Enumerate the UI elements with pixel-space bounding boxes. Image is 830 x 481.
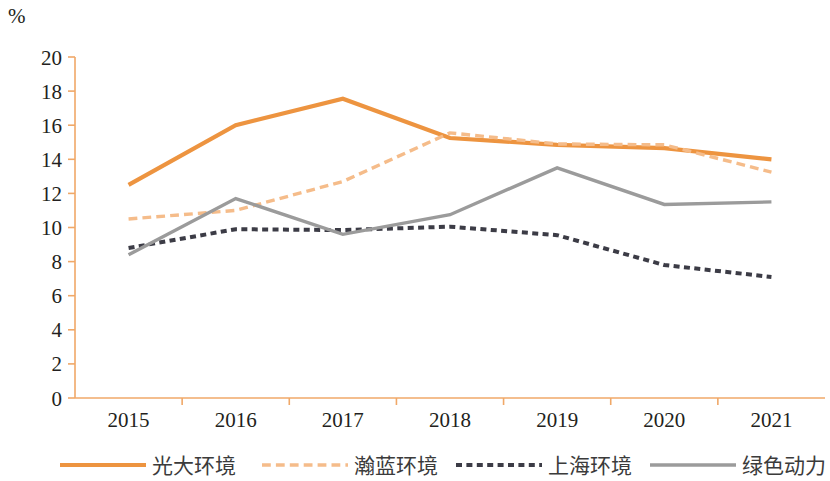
data-series-group <box>129 99 772 277</box>
x-axis-ticks <box>182 398 718 405</box>
legend-label-2: 瀚蓝环境 <box>354 454 438 478</box>
line-chart: % 02468101214161820 20152016201720182019… <box>0 0 830 481</box>
y-axis-tick-labels: 02468101214161820 <box>41 46 63 411</box>
y-tick-label: 2 <box>52 352 63 376</box>
chart-legend: 光大环境瀚蓝环境上海环境绿色动力 <box>60 454 826 478</box>
x-tick-label: 2017 <box>322 408 364 432</box>
y-tick-label: 14 <box>41 148 63 172</box>
x-tick-label: 2015 <box>108 408 150 432</box>
y-tick-label: 8 <box>52 250 63 274</box>
y-tick-label: 20 <box>41 46 62 70</box>
legend-label-1: 光大环境 <box>152 454 236 478</box>
x-tick-label: 2018 <box>429 408 471 432</box>
y-tick-label: 0 <box>52 387 63 411</box>
x-tick-label: 2016 <box>215 408 257 432</box>
y-axis-ticks <box>68 57 75 398</box>
y-tick-label: 16 <box>41 114 62 138</box>
series-line-3 <box>129 227 772 277</box>
y-tick-label: 10 <box>41 216 62 240</box>
x-tick-label: 2021 <box>750 408 792 432</box>
series-line-4 <box>129 168 772 255</box>
y-tick-label: 4 <box>52 318 63 342</box>
series-line-1 <box>129 99 772 185</box>
legend-label-4: 绿色动力 <box>742 454 826 478</box>
y-tick-label: 18 <box>41 80 62 104</box>
y-tick-label: 12 <box>41 182 62 206</box>
x-axis-tick-labels: 2015201620172018201920202021 <box>108 408 793 432</box>
x-tick-label: 2020 <box>643 408 685 432</box>
chart-plot-area: 02468101214161820 2015201620172018201920… <box>0 0 830 481</box>
x-tick-label: 2019 <box>536 408 578 432</box>
y-tick-label: 6 <box>52 284 63 308</box>
legend-label-3: 上海环境 <box>548 454 632 478</box>
